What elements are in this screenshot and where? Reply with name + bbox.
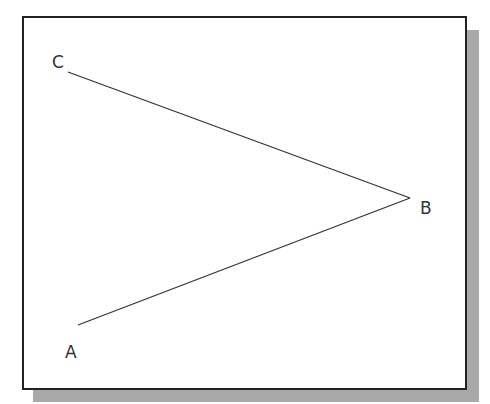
point-label-b: B	[420, 198, 432, 218]
point-label-a: A	[65, 342, 77, 362]
segment-ab	[78, 198, 410, 325]
segment-cb	[68, 72, 410, 198]
angle-diagram: C B A	[0, 0, 490, 404]
point-label-c: C	[52, 52, 64, 72]
